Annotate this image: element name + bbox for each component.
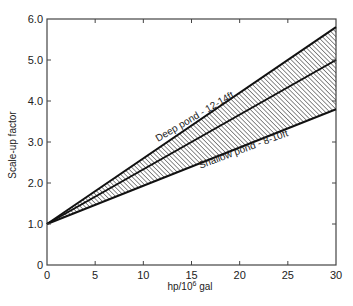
x-axis-label-unit: gal (196, 281, 212, 292)
middle-line (47, 60, 336, 224)
y-tick-label: 6.0 (28, 13, 43, 25)
x-tick-label: 0 (44, 269, 50, 281)
y-tick-label: 2.0 (28, 177, 43, 189)
x-tick-label: 30 (330, 269, 342, 281)
y-axis-label: Scale-up factor (7, 111, 18, 179)
y-tick-label: 3.0 (28, 136, 43, 148)
x-tick-label: 10 (137, 269, 149, 281)
x-tick-label: 25 (282, 269, 294, 281)
x-axis-label-base: hp/10 (167, 281, 192, 292)
x-tick-label: 5 (92, 269, 98, 281)
y-tick-label: 5.0 (28, 54, 43, 66)
series-lines (47, 27, 336, 224)
y-tick-label: 4.0 (28, 95, 43, 107)
x-axis-label: hp/106 gal (167, 280, 212, 292)
y-tick-label: 0 (37, 259, 43, 271)
scale-up-chart: 05101520253001.02.03.04.05.06.0 Deep pon… (0, 0, 353, 306)
x-tick-label: 20 (234, 269, 246, 281)
y-tick-label: 1.0 (28, 218, 43, 230)
